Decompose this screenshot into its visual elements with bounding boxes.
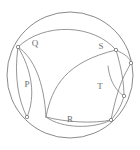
region-label-q: Q — [32, 38, 39, 48]
region-label-p: P — [24, 79, 29, 89]
arc-bottom-chord-r — [46, 117, 111, 122]
vertex-upper-right-outer-dot — [129, 61, 132, 64]
figure-canvas: P Q R S T — [0, 0, 140, 150]
arc-right-lens-upper — [116, 50, 124, 96]
vertex-top-left-dot — [16, 45, 19, 48]
vertex-bottom-left-dot — [25, 115, 28, 118]
region-label-s: S — [98, 41, 103, 51]
region-label-r: R — [67, 114, 73, 124]
region-label-t: T — [97, 81, 103, 91]
vertex-mid-right-dot — [122, 94, 125, 97]
vertex-bottom-right-dot — [109, 118, 112, 121]
geometry-figure: P Q R S T — [0, 0, 140, 150]
vertex-top-right-dot — [114, 48, 117, 51]
arc-center-divider — [46, 50, 116, 117]
